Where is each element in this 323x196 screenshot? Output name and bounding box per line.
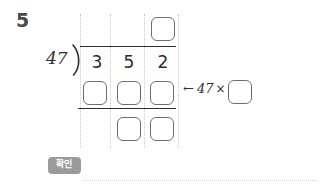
remainder-answer-box[interactable]: [117, 117, 141, 141]
hint-operand: 47: [197, 82, 214, 95]
problem-number: 5: [16, 11, 29, 30]
column-guide-line: [178, 14, 179, 148]
division-vinculum-line: [80, 46, 176, 47]
dividend-digit: 3: [82, 52, 112, 72]
column-guide-line: [144, 14, 145, 148]
multiplication-hint: ← 47 ×: [183, 82, 226, 95]
product-answer-box[interactable]: [150, 81, 174, 105]
multiply-icon: ×: [215, 83, 225, 95]
section-divider: [84, 180, 317, 181]
dividend-digit: 2: [148, 52, 178, 72]
column-guide-line: [110, 14, 111, 148]
dividend-digit: 5: [114, 52, 144, 72]
quotient-answer-box[interactable]: [151, 17, 175, 41]
subtraction-line: [78, 108, 176, 109]
column-guide-line: [80, 14, 81, 148]
remainder-answer-box[interactable]: [150, 117, 174, 141]
product-answer-box[interactable]: [117, 81, 141, 105]
confirm-button[interactable]: 확인: [48, 157, 81, 174]
divisor: 47: [46, 50, 68, 67]
product-answer-box[interactable]: [83, 81, 107, 105]
left-arrow-icon: ←: [183, 82, 194, 95]
division-worksheet: 5 47 3 5 2 ← 47 × 확인: [0, 0, 323, 196]
multiplier-answer-box[interactable]: [228, 80, 252, 104]
